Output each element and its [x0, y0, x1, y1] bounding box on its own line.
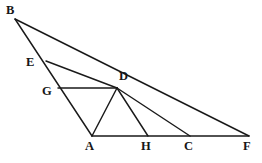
segment-D-C — [117, 88, 190, 136]
segment-B-F — [15, 19, 249, 136]
vertex-label-E: E — [26, 56, 34, 69]
vertex-label-G: G — [42, 85, 52, 98]
segments-group — [15, 19, 249, 136]
vertex-label-H: H — [141, 140, 151, 153]
vertex-label-D: D — [119, 70, 128, 83]
vertex-label-A: A — [85, 140, 94, 153]
vertex-label-F: F — [243, 140, 251, 153]
segment-B-A — [15, 19, 92, 136]
segment-D-H — [117, 88, 148, 136]
geometry-diagram-canvas — [0, 0, 262, 163]
geometry-figure: B E G D A H C F — [0, 0, 262, 163]
segment-D-A — [92, 88, 117, 136]
vertex-label-C: C — [184, 140, 193, 153]
vertex-label-B: B — [6, 4, 14, 17]
